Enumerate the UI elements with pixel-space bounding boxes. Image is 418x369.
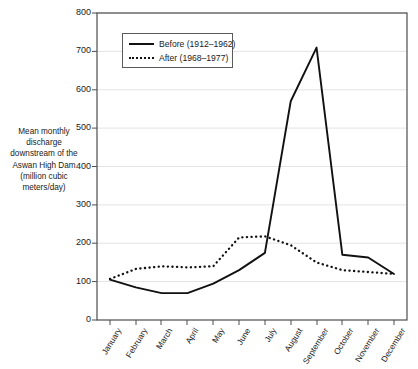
legend-item-before: Before (1912–1962) (129, 37, 235, 51)
legend-label-before: Before (1912–1962) (159, 39, 235, 49)
chart-container: Mean monthly discharge downstream of the… (0, 0, 418, 369)
legend-item-after: After (1968–1977) (129, 51, 228, 65)
legend-dotted-line-icon (129, 57, 154, 59)
series-line-before (110, 48, 394, 294)
x-axis-tick-marks (110, 320, 394, 325)
legend: Before (1912–1962) After (1968–1977) (122, 33, 233, 68)
y-axis-tick-marks (92, 13, 97, 320)
legend-solid-line-icon (129, 43, 154, 45)
legend-label-after: After (1968–1977) (159, 53, 228, 63)
